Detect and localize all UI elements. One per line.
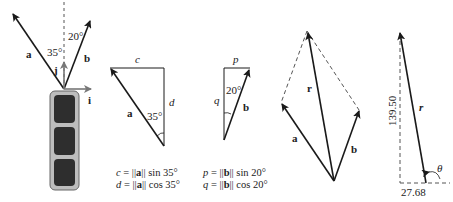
eq-d-function: cos 35° (149, 179, 180, 190)
label-angle-35-tri: 35° (147, 110, 162, 122)
eq-q-function: cos 20° (236, 179, 267, 190)
figure-traffic-light-vectors: a 35° 20° b j i (13, 2, 91, 190)
hypotenuse-a (111, 69, 164, 146)
label-r-para: r (307, 82, 312, 94)
eq-d-lhs: d (116, 179, 121, 190)
vector-r-para (308, 33, 334, 181)
equation-c: c = ||a|| sin 35° (116, 167, 178, 179)
equation-d: d = ||a|| cos 35° (116, 179, 180, 191)
vector-a-para (282, 104, 334, 181)
equation-p: p = ||b|| sin 20° (203, 167, 266, 179)
label-b-para: b (351, 143, 357, 155)
eq-q-vector: b (224, 179, 230, 190)
label-p: p (232, 53, 239, 65)
label-unit-j: j (53, 64, 58, 76)
label-angle-20: 20° (68, 30, 83, 42)
figure-triangle-b: p q b 20° (214, 53, 250, 140)
eq-p-vector: b (224, 167, 230, 178)
label-a-para: a (292, 132, 298, 144)
label-q: q (214, 94, 220, 106)
eq-p-function: sin 20° (236, 167, 266, 178)
light-cell-top (54, 95, 75, 123)
dashed-side-left (281, 31, 307, 103)
light-cell-bottom (54, 159, 75, 186)
eq-q-lhs: q (203, 179, 208, 190)
angle-arc-35 (157, 133, 164, 136)
label-angle-20-tri: 20° (226, 84, 241, 96)
figure-triangle-a: c d a 35° (110, 53, 175, 146)
label-vector-a: a (26, 48, 32, 60)
label-theta: θ (437, 162, 443, 174)
label-d: d (169, 96, 175, 108)
light-cell-middle (54, 127, 75, 155)
label-vector-b: b (84, 52, 90, 64)
label-horizontal-value: 27.68 (401, 186, 426, 198)
eq-c-lhs: c (116, 167, 121, 178)
eq-d-vector: a (137, 179, 142, 190)
eq-p-lhs: p (203, 167, 208, 178)
traffic-light-housing (50, 91, 79, 190)
equation-q: q = ||b|| cos 20° (203, 179, 268, 191)
label-unit-i: i (88, 94, 91, 106)
figure-parallelogram: r a b (281, 31, 359, 181)
label-hyp-b: b (243, 101, 249, 113)
label-angle-35: 35° (47, 46, 62, 58)
figure-resultant-components: r 139.50 27.68 θ (386, 33, 450, 198)
label-r: r (419, 101, 424, 113)
eq-c-function: sin 35° (148, 167, 178, 178)
label-hyp-a: a (127, 107, 133, 119)
label-c: c (135, 53, 140, 65)
angle-arc-20 (224, 113, 231, 114)
label-vertical-value: 139.50 (386, 95, 398, 126)
eq-c-vector: a (136, 167, 141, 178)
